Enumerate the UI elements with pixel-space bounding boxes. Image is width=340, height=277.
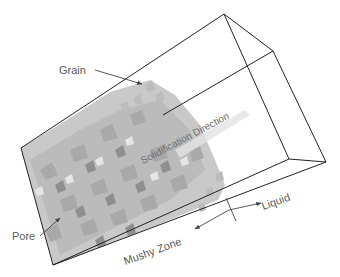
grain-arrow (95, 70, 142, 84)
liquid-arrow (229, 203, 261, 210)
diagram-figure: Grain Pore Solidification Direction Liqu… (0, 0, 340, 277)
grain-structure (21, 80, 250, 265)
interface-tick (226, 198, 236, 221)
pore-label: Pore (12, 230, 35, 242)
mushy-zone-arrow (195, 210, 229, 229)
grain-label: Grain (59, 64, 86, 76)
